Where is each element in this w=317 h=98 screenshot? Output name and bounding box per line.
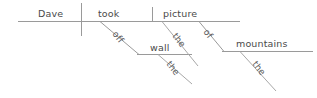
label-article-the-mountains: the	[250, 59, 267, 77]
label-verb: took	[98, 8, 120, 19]
label-object-of-preposition-wall: wall	[150, 42, 169, 53]
sentence-diagram: Dave took picture off wall the the of mo…	[0, 0, 317, 98]
sentence-diagram-canvas: Dave took picture off wall the the of mo…	[0, 0, 317, 98]
label-subject: Dave	[38, 8, 63, 19]
label-article-the-picture: the	[170, 31, 187, 49]
label-direct-object: picture	[163, 8, 197, 19]
label-object-of-preposition-mountains: mountains	[236, 38, 288, 49]
label-preposition-off: off	[110, 29, 126, 45]
